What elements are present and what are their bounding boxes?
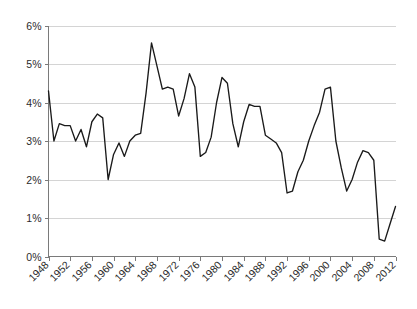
- x-tick-label-1968: 1968: [134, 258, 159, 283]
- chart-canvas: 0%1%2%3%4%5%6% 1948195219561960196419681…: [0, 0, 417, 309]
- x-tick-label-1984: 1984: [221, 258, 246, 283]
- y-tick-label-1: 1%: [26, 212, 41, 224]
- x-tick-label-2012: 2012: [373, 258, 398, 283]
- x-tick-label-1964: 1964: [112, 258, 137, 283]
- x-tick-label-1976: 1976: [177, 258, 202, 283]
- x-tick-label-2008: 2008: [351, 258, 376, 283]
- y-tick-label-3: 3%: [26, 135, 41, 147]
- x-tick-label-2004: 2004: [329, 258, 354, 283]
- gridlines: [49, 27, 396, 219]
- data-series: [49, 43, 396, 241]
- x-tick-label-1980: 1980: [199, 258, 224, 283]
- x-tick-label-1956: 1956: [69, 258, 94, 283]
- y-tick-label-6: 6%: [26, 20, 41, 32]
- data-line: [49, 43, 396, 241]
- x-axis: 1948195219561960196419681972197619801984…: [26, 257, 398, 284]
- y-axis: 0%1%2%3%4%5%6%: [26, 20, 48, 263]
- x-tick-label-1988: 1988: [242, 258, 267, 283]
- line-chart: 0%1%2%3%4%5%6% 1948195219561960196419681…: [0, 0, 417, 309]
- x-tick-label-1992: 1992: [264, 258, 289, 283]
- x-tick-label-1972: 1972: [156, 258, 181, 283]
- x-tick-label-1996: 1996: [286, 258, 311, 283]
- x-tick-label-1960: 1960: [91, 258, 116, 283]
- y-tick-label-4: 4%: [26, 97, 41, 109]
- x-tick-label-2000: 2000: [307, 258, 332, 283]
- x-tick-label-1952: 1952: [47, 258, 72, 283]
- y-tick-label-2: 2%: [26, 174, 41, 186]
- y-tick-label-5: 5%: [26, 58, 41, 70]
